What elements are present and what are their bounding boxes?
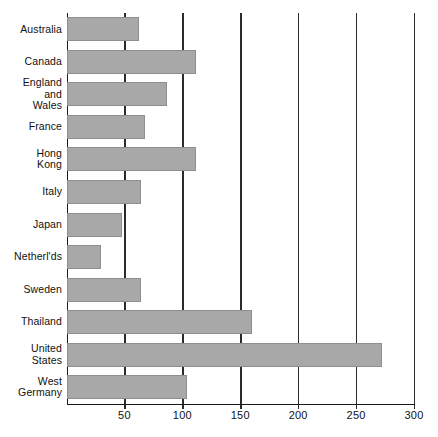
category-label-united-states: United States bbox=[0, 343, 62, 366]
bar-england-and-wales bbox=[67, 82, 168, 106]
bar-united-states bbox=[67, 343, 382, 367]
bar-chart: 50100150200250300 AustraliaCanadaEngland… bbox=[0, 0, 438, 437]
bar-hong-kong bbox=[67, 147, 197, 171]
x-tick-mark-100 bbox=[182, 405, 183, 409]
category-label-italy: Italy bbox=[0, 186, 62, 198]
category-label-france: France bbox=[0, 121, 62, 133]
category-label-japan: Japan bbox=[0, 219, 62, 231]
category-label-hong-kong: Hong Kong bbox=[0, 148, 62, 171]
bar-canada bbox=[67, 50, 197, 74]
bar-italy bbox=[67, 180, 141, 204]
category-label-netherl'ds: Netherl'ds bbox=[0, 251, 62, 263]
bar-france bbox=[67, 115, 146, 139]
bar-west-germany bbox=[67, 375, 187, 399]
bar-thailand bbox=[67, 310, 252, 334]
x-tick-label-300: 300 bbox=[394, 409, 434, 422]
category-label-canada: Canada bbox=[0, 56, 62, 68]
x-tick-label-150: 150 bbox=[220, 409, 260, 422]
x-tick-label-50: 50 bbox=[104, 409, 144, 422]
category-label-thailand: Thailand bbox=[0, 316, 62, 328]
x-tick-mark-250 bbox=[356, 405, 357, 409]
bar-netherl'ds bbox=[67, 245, 102, 269]
category-label-australia: Australia bbox=[0, 24, 62, 36]
category-label-sweden: Sweden bbox=[0, 284, 62, 296]
x-tick-mark-200 bbox=[298, 405, 299, 409]
x-tick-mark-300 bbox=[414, 405, 415, 409]
x-tick-label-100: 100 bbox=[162, 409, 202, 422]
category-label-west-germany: West Germany bbox=[0, 376, 62, 399]
bar-japan bbox=[67, 213, 123, 237]
gridline-300 bbox=[414, 13, 415, 404]
x-tick-label-200: 200 bbox=[278, 409, 318, 422]
x-tick-mark-50 bbox=[124, 405, 125, 409]
x-tick-label-250: 250 bbox=[336, 409, 376, 422]
x-tick-mark-150 bbox=[240, 405, 241, 409]
bar-australia bbox=[67, 17, 140, 41]
category-label-england-and-wales: England and Wales bbox=[0, 77, 62, 112]
bar-sweden bbox=[67, 278, 141, 302]
